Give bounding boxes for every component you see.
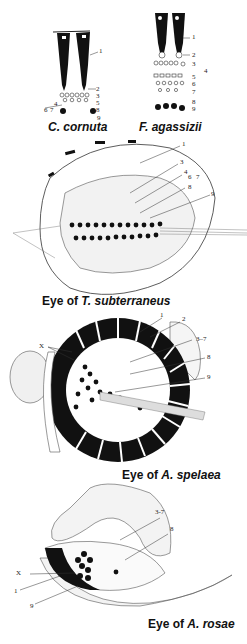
panel-f-agassizii: 1 2 3 4 5 6 7 8 9 <box>150 8 220 118</box>
label-x: X <box>39 343 44 350</box>
panel-t-subterraneus: 1 3 4 6 7 8 9 <box>10 138 247 298</box>
a-spelaea-eye-illustration <box>0 312 247 462</box>
label-8: 8 <box>96 107 100 114</box>
label-8: 8 <box>207 354 211 361</box>
label-9: 9 <box>30 603 34 610</box>
label-3: 3 <box>180 159 184 166</box>
label-x: X <box>16 570 21 577</box>
label-8: 8 <box>188 184 192 191</box>
species-name: A. rosae <box>187 617 234 631</box>
label-7: 7 <box>192 89 196 96</box>
label-7: 7 <box>50 107 54 114</box>
label-9: 9 <box>211 191 215 198</box>
caption-a-rosae: Eye of A. rosae <box>148 617 235 631</box>
label-2: 2 <box>192 52 196 59</box>
species-name: F. agassizii <box>139 120 202 134</box>
label-6: 6 <box>44 107 48 114</box>
label-2: 2 <box>182 316 186 323</box>
species-name: C. cornuta <box>48 120 107 134</box>
caption-f-agassizii: F. agassizii <box>139 120 202 134</box>
t-subterraneus-eye-illustration <box>10 138 247 298</box>
label-1: 1 <box>182 141 186 148</box>
label-3-7: 3-7 <box>155 509 164 516</box>
label-1: 1 <box>160 312 164 319</box>
label-9: 9 <box>192 106 196 113</box>
label-3: 3 <box>192 61 196 68</box>
label-7: 7 <box>196 174 200 181</box>
f-agassizii-ommatidia-illustration <box>150 8 220 118</box>
label-6: 6 <box>192 81 196 88</box>
caption-c-cornuta: C. cornuta <box>48 120 107 134</box>
label-3-7: 3–7 <box>196 336 207 343</box>
label-4: 4 <box>184 169 188 176</box>
label-1: 1 <box>14 588 18 595</box>
caption-t-subterraneus: Eye of T. subterraneus <box>42 294 171 308</box>
label-4: 4 <box>54 101 58 108</box>
species-name: T. subterraneus <box>81 294 170 308</box>
label-8: 8 <box>170 526 174 533</box>
label-6: 6 <box>188 174 192 181</box>
label-1: 1 <box>192 34 196 41</box>
label-1: 1 <box>99 48 103 55</box>
label-9: 9 <box>207 374 211 381</box>
panel-a-spelaea: 1 2 3–7 8 9 X <box>0 312 247 462</box>
panel-c-cornuta: 1 2 3 4 5 6 7 8 9 <box>40 25 110 105</box>
panel-a-rosae: 3-7 8 X 1 9 <box>0 478 247 613</box>
a-rosae-eye-illustration <box>0 478 247 613</box>
label-4: 4 <box>204 68 208 75</box>
